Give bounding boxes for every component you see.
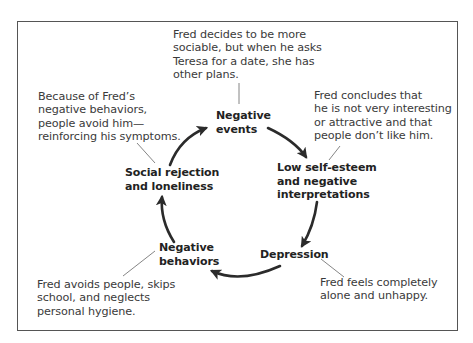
node-social-rejection: Social rejection and loneliness — [125, 166, 219, 193]
leader-social-rejection — [137, 143, 155, 163]
arrow-behaviors-to-rejection — [162, 197, 174, 242]
arrow-events-to-esteem — [268, 128, 306, 157]
annotation-social-rejection: Because of Fred’s negative behaviors, pe… — [38, 90, 181, 143]
annotation-negative-behaviors: Fred avoids people, skips school, and ne… — [37, 278, 175, 318]
annotation-low-self-esteem: Fred concludes that he is not very inter… — [314, 89, 452, 142]
arrow-esteem-to-depression — [302, 202, 317, 246]
arrow-depression-to-behaviors — [212, 266, 280, 276]
node-negative-behaviors: Negative behaviors — [159, 241, 219, 268]
node-negative-events: Negative events — [216, 109, 271, 136]
leader-negative-behaviors — [123, 251, 155, 276]
annotation-negative-events: Fred decides to be more sociable, but wh… — [173, 28, 322, 81]
node-low-self-esteem: Low self-esteem and negative interpretat… — [277, 161, 377, 202]
annotation-depression: Fred feels completely alone and unhappy. — [320, 276, 438, 303]
node-depression: Depression — [260, 248, 329, 262]
leader-depression — [321, 259, 344, 277]
leader-low-self-esteem — [329, 146, 340, 160]
